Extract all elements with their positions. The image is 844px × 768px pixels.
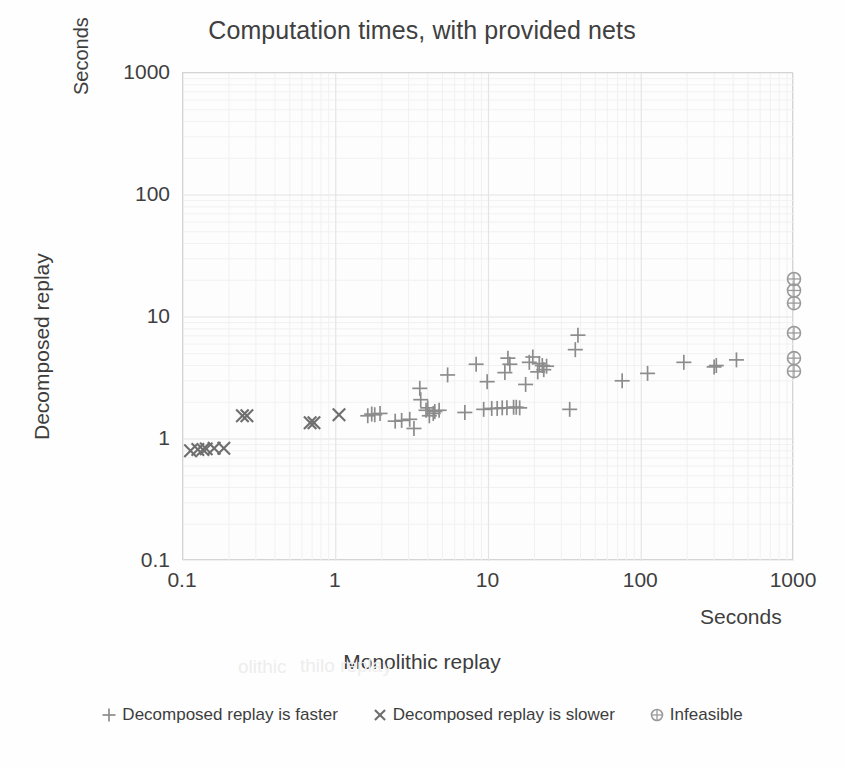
data-point <box>676 355 691 370</box>
data-point <box>707 359 722 374</box>
data-point <box>568 342 583 357</box>
data-point <box>615 373 630 388</box>
data-markers-layer <box>183 73 794 561</box>
x-axis-title: Monolithic replay <box>0 650 844 674</box>
data-point <box>709 358 724 373</box>
plus-marker-icon <box>101 707 117 723</box>
x-axis-unit-label: Seconds <box>700 605 782 629</box>
data-point <box>562 402 577 417</box>
plot-area <box>182 72 793 560</box>
x-tick-label: 1000 <box>738 568 844 592</box>
data-point <box>469 357 484 372</box>
chart-title: Computation times, with provided nets <box>0 16 844 45</box>
legend-item-label: Infeasible <box>670 706 743 723</box>
data-point <box>412 381 427 396</box>
x-tick-label: 1 <box>280 568 390 592</box>
x-tick-label: 10 <box>433 568 543 592</box>
data-point <box>333 409 345 421</box>
y-tick-label: 100 <box>70 182 170 206</box>
series-cross <box>184 409 345 458</box>
chart-figure: Computation times, with provided nets Se… <box>0 0 844 768</box>
data-point <box>788 284 801 297</box>
legend-item-label: Decomposed replay is faster <box>122 706 337 723</box>
data-point <box>570 328 585 343</box>
y-tick-label: 1 <box>70 426 170 450</box>
legend-item[interactable]: Decomposed replay is faster <box>101 706 337 723</box>
legend-item[interactable]: Infeasible <box>649 706 743 723</box>
series-plus <box>360 328 744 436</box>
data-point <box>476 402 491 417</box>
data-point <box>788 352 801 365</box>
data-point <box>394 413 409 428</box>
data-point <box>360 408 375 423</box>
series-circle-plus <box>788 272 801 377</box>
data-point <box>640 366 655 381</box>
y-axis-title: Decomposed replay <box>30 253 54 440</box>
data-point <box>440 367 455 382</box>
y-tick-label: 10 <box>70 304 170 328</box>
data-point <box>788 365 801 378</box>
legend-item[interactable]: Decomposed replay is slower <box>372 706 615 723</box>
data-point <box>218 442 230 454</box>
x-tick-label: 0.1 <box>127 568 237 592</box>
legend-item-label: Decomposed replay is slower <box>393 706 615 723</box>
chart-legend: Decomposed replay is fasterDecomposed re… <box>0 706 844 723</box>
data-point <box>457 405 472 420</box>
y-axis-tick-labels: 10001001010.1 <box>62 72 170 560</box>
data-point <box>402 412 417 427</box>
circle-marker-icon <box>649 707 665 723</box>
cross-marker-icon <box>372 707 388 723</box>
x-tick-label: 100 <box>585 568 695 592</box>
data-point <box>729 352 744 367</box>
data-point <box>788 326 801 339</box>
data-point <box>480 374 495 389</box>
data-point <box>518 377 533 392</box>
data-point <box>788 297 801 310</box>
x-axis-tick-labels: 0.11101001000 <box>182 568 793 602</box>
y-tick-label: 1000 <box>70 60 170 84</box>
data-point <box>406 421 421 436</box>
